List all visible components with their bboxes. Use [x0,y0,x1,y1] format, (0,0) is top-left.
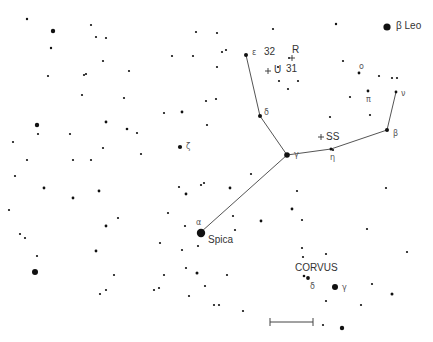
star [296,190,298,192]
star [90,159,92,161]
star [272,28,274,30]
star-delta-crv [306,276,310,280]
star [184,225,186,227]
star [297,80,299,82]
star [322,324,324,326]
star [140,153,142,155]
star [35,123,39,127]
label-gamma-crv: γ [342,284,347,292]
star [196,272,199,275]
star [301,219,303,221]
star [117,217,119,219]
star-pi-vir [367,90,370,93]
star [195,31,197,33]
star [128,70,130,72]
star [340,326,344,330]
star [229,187,232,190]
star [391,293,394,296]
label-pi-vir: π [366,96,371,104]
label-nu-vir: ν [401,90,405,98]
star [69,133,71,135]
star [163,112,165,114]
star [303,275,306,278]
star [342,60,344,62]
star [360,304,362,306]
star [167,212,169,214]
star [391,77,393,79]
star [406,251,408,253]
variable-cross-U-cross [265,68,271,74]
constellation-line [246,55,260,116]
star [14,175,16,177]
star [325,300,327,302]
star [329,116,331,118]
star [123,97,125,99]
star [158,287,160,289]
star [218,304,220,306]
star [113,274,115,276]
star [105,37,107,39]
star [95,250,98,253]
variable-cross-SS-cross [318,134,324,140]
label-gamma-vir: γ [294,151,299,159]
star [105,121,108,124]
star [37,133,39,135]
star [51,29,55,33]
star [47,75,49,77]
label-spica: Spica [208,235,233,245]
star [203,182,205,184]
label-delta-crv: δ [310,283,315,291]
star [349,96,351,98]
star [159,242,161,244]
star [232,215,234,217]
label-delta-vir: δ [264,109,269,117]
star [185,193,188,196]
star [43,187,46,190]
label-SS-var: SS [326,132,339,142]
label-omicron-vir: ο [359,63,364,71]
star [385,187,387,189]
star [90,24,92,26]
star-epsilon-vir [244,53,248,57]
star [200,184,202,186]
constellation-line [201,155,287,232]
star [95,36,97,38]
star-nu-vir [395,91,398,94]
star [332,149,334,151]
star [221,51,223,53]
star [8,209,10,211]
scale-bar [270,318,313,326]
star [50,47,52,49]
label-beta-vir: β [393,130,398,138]
star [215,98,217,100]
star [366,228,368,230]
star-chart-virgo: β Leoε32R31UδζγSSηβνοπαSpicaCORVUSδγ [0,0,433,342]
star [216,32,218,34]
label-R-var: R [292,45,299,55]
star [136,132,138,134]
star-spica [197,229,205,237]
label-beta-leo: β Leo [396,21,421,31]
sky-canvas [0,0,433,342]
star [98,190,101,193]
label-U-var: U [274,65,281,75]
star-beta-vir [385,128,389,132]
star [181,249,183,251]
star [226,274,228,276]
star [192,55,194,57]
label-corvus: CORVUS [295,263,338,273]
star [197,245,199,247]
star [153,289,155,291]
star [378,75,380,77]
star-omicron-vir [358,72,361,75]
star [242,310,244,312]
star [12,141,14,143]
star [204,285,206,287]
star [26,18,28,20]
star [178,186,180,188]
star-zeta-vir [178,145,182,149]
star [72,159,74,161]
star [102,147,104,149]
star [181,111,184,114]
star [102,60,104,62]
